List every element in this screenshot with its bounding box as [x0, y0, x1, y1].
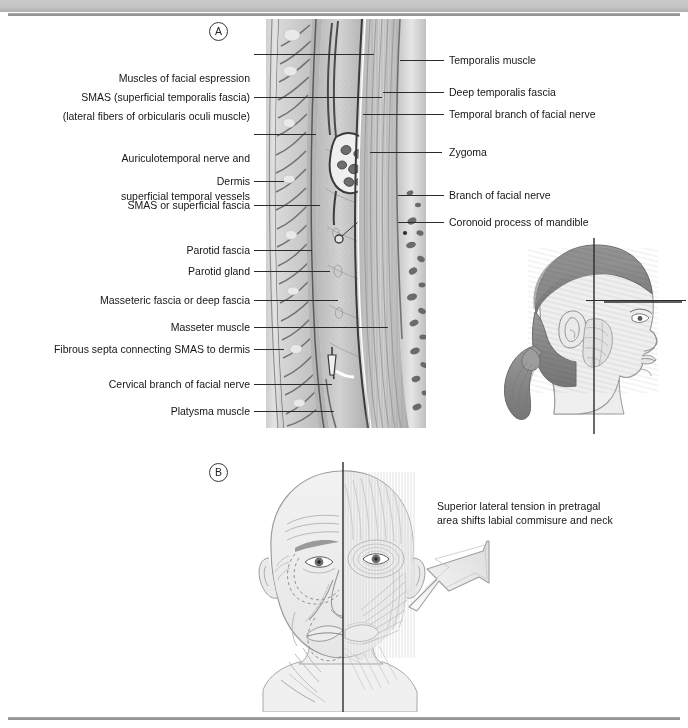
label-smas-superficial-temporalis-fascia: SMAS (superficial temporalis fascia): [20, 91, 250, 104]
leader-cervical-branch-of-facial-nerve: [254, 384, 332, 385]
label-parotid-gland: Parotid gland: [20, 265, 250, 278]
header-rule: [8, 13, 680, 16]
caption-line-2: area shifts labial commisure and neck: [437, 514, 677, 528]
label-line-2: (lateral fibers of orbicularis oculi mus…: [20, 110, 250, 123]
leader-platysma-muscle: [254, 411, 334, 412]
label-zygoma: Zygoma: [449, 146, 487, 159]
leader-coronoid-process-of-mandible: [398, 222, 444, 223]
label-masseteric-fascia: Masseteric fascia or deep fascia: [10, 294, 250, 307]
page-header-band: [0, 0, 688, 12]
leader-deep-temporalis-fascia: [383, 92, 444, 93]
leader-branch-of-facial-nerve: [398, 195, 444, 196]
label-line-1: Muscles of facial espression: [20, 72, 250, 85]
label-platysma-muscle: Platysma muscle: [20, 405, 250, 418]
leader-smas-superficial-temporalis-fascia: [254, 97, 382, 98]
label-temporal-branch-of-facial-nerve: Temporal branch of facial nerve: [449, 108, 596, 121]
label-temporalis-muscle: Temporalis muscle: [449, 54, 536, 67]
leader-temporalis-muscle: [400, 60, 444, 61]
leader-fibrous-septa: [254, 349, 284, 350]
panel-a-marker: A: [209, 22, 228, 41]
leader-dermis: [254, 181, 284, 182]
label-masseter-muscle: Masseter muscle: [20, 321, 250, 334]
label-smas-or-superficial-fascia: SMAS or superficial fascia: [20, 199, 250, 212]
label-coronoid-process-of-mandible: Coronoid process of mandible: [449, 216, 589, 229]
leader-parotid-fascia: [254, 250, 312, 251]
panel-a-illustration: [266, 19, 426, 428]
leader-smas-or-superficial-fascia: [254, 205, 320, 206]
label-branch-of-facial-nerve: Branch of facial nerve: [449, 189, 551, 202]
leader-auriculotemporal-nerve: [254, 134, 316, 135]
section-plane-horizontal-line: [586, 300, 686, 301]
head-profile-inset: [484, 238, 684, 434]
figure-page: A B: [0, 0, 688, 728]
label-line-1: Auriculotemporal nerve and: [20, 152, 250, 165]
panel-b-marker: B: [209, 463, 228, 482]
leader-masseteric-fascia: [254, 300, 338, 301]
leader-temporal-branch-of-facial-nerve: [363, 114, 444, 115]
label-deep-temporalis-fascia: Deep temporalis fascia: [449, 86, 556, 99]
label-cervical-branch-of-facial-nerve: Cervical branch of facial nerve: [14, 378, 250, 391]
caption-line-1: Superior lateral tension in pretragal: [437, 500, 677, 514]
label-fibrous-septa: Fibrous septa connecting SMAS to dermis: [6, 343, 250, 356]
panel-b-caption: Superior lateral tension in pretragal ar…: [437, 500, 677, 527]
leader-parotid-gland: [254, 271, 330, 272]
leader-zygoma: [370, 152, 442, 153]
leader-masseter-muscle: [254, 327, 388, 328]
label-parotid-fascia: Parotid fascia: [20, 244, 250, 257]
footer-rule: [8, 717, 680, 720]
label-dermis: Dermis: [20, 175, 250, 188]
tension-direction-arrow: [405, 533, 515, 613]
leader-muscles-of-facial-expression: [254, 54, 374, 55]
